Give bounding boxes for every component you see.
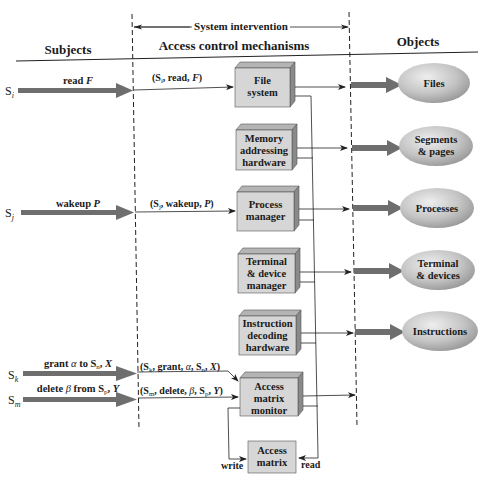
read-label: read xyxy=(301,459,321,470)
subject-sk: Sk grant α to Sn, X (Sk, grant, α, Sn, X… xyxy=(8,358,238,384)
svg-text:& device: & device xyxy=(247,268,287,279)
subject-sm: Sm delete β from Sp, Y (Sm, delete, β, S… xyxy=(8,383,238,409)
subjects-header: Subjects xyxy=(45,42,92,57)
svg-text:Files: Files xyxy=(424,78,445,89)
svg-text:read F: read F xyxy=(63,75,93,86)
boundary-left xyxy=(132,14,139,430)
svg-text:Processes: Processes xyxy=(416,203,458,214)
box-process-manager: Process manager xyxy=(237,186,349,231)
object-instructions: Instructions xyxy=(355,311,478,351)
mechanisms-header: Access control mechanisms xyxy=(159,38,310,53)
svg-text:Sj: Sj xyxy=(5,206,15,222)
subject-sj: Sj wakeup P (Sj, wakeup, P) xyxy=(5,198,235,222)
svg-text:decoding: decoding xyxy=(247,330,288,341)
system-intervention-label: System intervention xyxy=(194,20,288,32)
svg-text:monitor: monitor xyxy=(251,405,288,416)
svg-text:Segments: Segments xyxy=(415,134,458,145)
read-bus-line xyxy=(311,96,318,456)
system-intervention-span: System intervention xyxy=(134,20,349,32)
svg-text:Instructions: Instructions xyxy=(413,326,467,337)
object-terminal-devices: Terminal & devices xyxy=(354,250,475,290)
object-processes: Processes xyxy=(353,188,474,228)
svg-text:Sk: Sk xyxy=(8,368,19,384)
svg-text:hardware: hardware xyxy=(246,342,290,353)
svg-text:Sm: Sm xyxy=(8,393,21,409)
svg-text:wakeup P: wakeup P xyxy=(56,198,101,209)
box-file-system: File system xyxy=(235,62,345,107)
svg-text:Memory: Memory xyxy=(245,133,284,144)
box-access-matrix: Access matrix write read xyxy=(221,441,321,473)
svg-text:Terminal: Terminal xyxy=(246,256,287,267)
object-files: Files xyxy=(351,63,470,103)
svg-text:& devices: & devices xyxy=(416,270,459,281)
svg-text:(Si, read, F): (Si, read, F) xyxy=(152,72,202,85)
svg-text:delete β from Sp, Y: delete β from Sp, Y xyxy=(37,383,121,396)
box-instruction-decoding-hardware: Instruction decoding hardware xyxy=(239,310,353,355)
svg-text:manager: manager xyxy=(246,211,286,222)
svg-text:Access: Access xyxy=(257,445,287,456)
svg-text:Access: Access xyxy=(254,381,284,392)
svg-text:& pages: & pages xyxy=(418,146,454,157)
svg-text:Instruction: Instruction xyxy=(242,318,292,329)
box-terminal-device-manager: Terminal & device manager xyxy=(238,248,351,293)
svg-text:grant α to Sn, X: grant α to Sn, X xyxy=(44,358,113,371)
access-control-diagram: System intervention Subjects Access cont… xyxy=(0,0,485,483)
svg-text:Terminal: Terminal xyxy=(417,258,458,269)
boundary-right xyxy=(349,12,357,426)
write-label: write xyxy=(221,460,244,471)
objects-header: Objects xyxy=(397,34,440,49)
svg-text:File: File xyxy=(254,75,271,86)
svg-text:system: system xyxy=(247,87,278,98)
svg-text:Process: Process xyxy=(249,199,283,210)
box-memory-addressing-hardware: Memory addressing hardware xyxy=(236,124,347,170)
svg-text:hardware: hardware xyxy=(242,157,286,168)
svg-text:matrix: matrix xyxy=(257,457,288,468)
svg-text:addressing: addressing xyxy=(240,145,289,156)
subject-si: Si read F (Si, read, F) xyxy=(5,72,233,100)
svg-text:matrix: matrix xyxy=(254,393,285,404)
svg-text:Si: Si xyxy=(5,84,14,100)
svg-text:(Sm, delete, β, Sp, Y): (Sm, delete, β, Sp, Y) xyxy=(140,385,223,398)
svg-text:(Sj, wakeup, P): (Sj, wakeup, P) xyxy=(150,198,214,211)
object-segments-pages: Segments & pages xyxy=(352,126,473,166)
svg-text:manager: manager xyxy=(247,280,287,291)
